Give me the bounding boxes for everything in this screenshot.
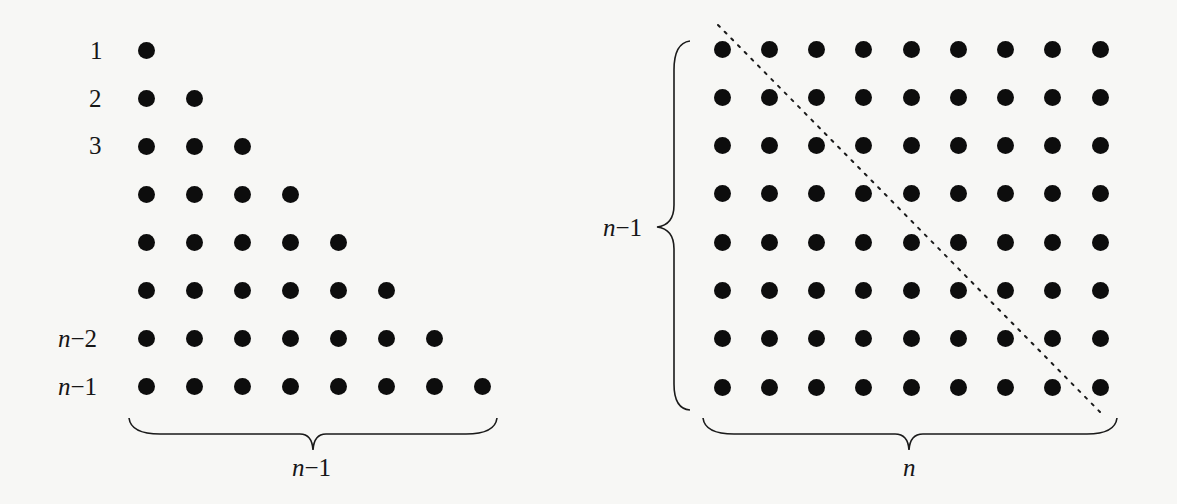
bottom-brace-right-panel — [703, 418, 1117, 450]
offset-text: −1 — [616, 214, 643, 241]
bottom-brace-label-right: n — [903, 455, 916, 480]
left-brace-right-panel — [657, 41, 690, 410]
figure-canvas: 1 2 3 n−2 n−1 n−1 n−1 n — [0, 0, 1177, 504]
dotted-diagonal — [718, 25, 1100, 412]
variable-n: n — [603, 214, 616, 241]
variable-n: n — [903, 454, 916, 481]
left-brace-label-right: n−1 — [603, 215, 642, 240]
right-panel-lines — [0, 0, 1177, 504]
